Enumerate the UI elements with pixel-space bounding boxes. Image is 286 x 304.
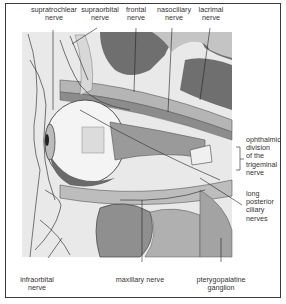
label-line: ganglion (188, 284, 254, 292)
label-line: nerve (24, 14, 84, 22)
label-ophthalmic-division: ophthalmic division of the trigeminal ne… (246, 136, 281, 177)
label-line: nerve (122, 14, 150, 22)
label-line: nerve (246, 169, 281, 177)
label-line: nerve (196, 14, 226, 22)
label-supratrochlear-nerve: supratrochlear nerve (24, 6, 84, 22)
label-line: nerve (78, 14, 122, 22)
label-line: nerve (152, 14, 196, 22)
label-infraorbital-nerve: infraorbital nerve (12, 276, 62, 292)
label-lacrimal-nerve: lacrimal nerve (196, 6, 226, 22)
label-long-posterior-ciliary-nerves: long posterior ciliary nerves (246, 190, 274, 223)
label-line: nerve (12, 284, 62, 292)
label-frontal-nerve: frontal nerve (122, 6, 150, 22)
label-line: maxillary nerve (110, 276, 170, 284)
orbit-illustration (0, 0, 286, 304)
label-pterygopalatine-ganglion: pterygopalatine ganglion (188, 276, 254, 292)
label-line: nerves (246, 215, 274, 223)
label-maxillary-nerve: maxillary nerve (110, 276, 170, 284)
label-supraorbital-nerve: supraorbital nerve (78, 6, 122, 22)
label-nasociliary-nerve: nasociliary nerve (152, 6, 196, 22)
